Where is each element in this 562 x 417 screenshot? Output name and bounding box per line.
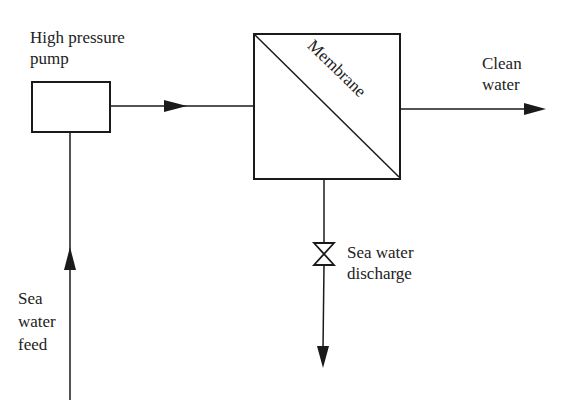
feed-line2: water [18, 310, 56, 333]
arrow-down-icon [317, 346, 329, 368]
discharge-line2: discharge [347, 263, 414, 284]
pump-label-line1: High pressure [30, 27, 125, 48]
arrow-right-icon [524, 103, 546, 115]
discharge-label: Sea water discharge [347, 242, 414, 284]
pump-label-line2: pump [30, 48, 125, 69]
valve-icon[interactable] [314, 243, 334, 265]
clean-water-line2: water [482, 74, 522, 95]
clean-water-label: Clean water [482, 53, 522, 95]
arrow-right-icon [164, 100, 187, 112]
feed-line [64, 132, 76, 400]
discharge-line1: Sea water [347, 242, 414, 263]
pump-to-membrane-line [110, 100, 254, 112]
clean-water-line [400, 103, 546, 115]
pump-label: High pressure pump [30, 27, 125, 69]
feed-label: Sea water feed [18, 287, 56, 356]
feed-line1: Sea [18, 287, 56, 310]
discharge-line [317, 178, 329, 368]
ro-process-diagram: High pressure pump Membrane Clean water … [0, 0, 562, 417]
high-pressure-pump[interactable] [31, 81, 111, 133]
arrow-up-icon [64, 247, 76, 270]
clean-water-line1: Clean [482, 53, 522, 74]
feed-line3: feed [18, 333, 56, 356]
